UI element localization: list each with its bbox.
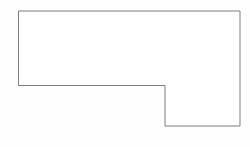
l-shape-polygon (19, 11, 240, 126)
drawing-canvas (0, 0, 250, 147)
line-drawing-svg (0, 0, 250, 147)
